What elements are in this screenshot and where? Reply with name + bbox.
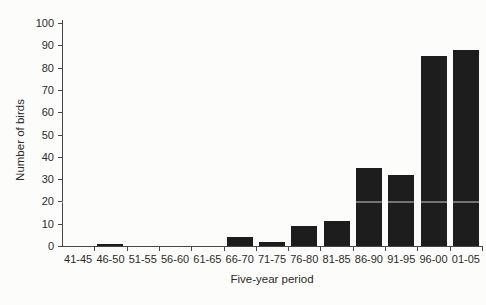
y-tick-mark	[58, 112, 62, 113]
bar-66-70	[227, 237, 253, 246]
y-tick-label: 30	[24, 173, 54, 185]
y-tick-mark	[58, 68, 62, 69]
x-tick-mark	[224, 247, 225, 251]
y-tick-label: 80	[24, 62, 54, 74]
bar-01-05	[453, 50, 479, 246]
y-tick-mark	[58, 23, 62, 24]
x-category-label: 76-80	[288, 253, 320, 265]
bar-96-00	[421, 56, 447, 246]
y-tick-label: 0	[24, 240, 54, 252]
bar-chart-figure: Number of birds Five-year period 0102030…	[0, 0, 486, 305]
bar-46-50	[97, 244, 123, 246]
x-tick-mark	[482, 247, 483, 251]
y-tick-mark	[58, 90, 62, 91]
y-tick-label: 50	[24, 129, 54, 141]
y-tick-mark	[58, 179, 62, 180]
y-axis-line	[62, 20, 63, 247]
x-tick-mark	[159, 247, 160, 251]
y-tick-label: 100	[24, 17, 54, 29]
x-category-label: 41-45	[62, 253, 94, 265]
x-tick-mark	[256, 247, 257, 251]
x-tick-mark	[417, 247, 418, 251]
x-category-label: 56-60	[159, 253, 191, 265]
y-tick-label: 90	[24, 39, 54, 51]
bar-76-80	[291, 226, 317, 246]
x-axis-title: Five-year period	[230, 273, 313, 285]
x-tick-mark	[450, 247, 451, 251]
x-category-label: 96-00	[417, 253, 449, 265]
bar-86-90	[356, 168, 382, 246]
bar-91-95	[388, 175, 414, 246]
x-tick-mark	[127, 247, 128, 251]
y-tick-mark	[58, 45, 62, 46]
x-category-label: 01-05	[450, 253, 482, 265]
x-category-label: 81-85	[320, 253, 352, 265]
x-tick-mark	[353, 247, 354, 251]
y-tick-mark	[58, 135, 62, 136]
scan-artifact-line	[62, 201, 482, 203]
x-tick-mark	[385, 247, 386, 251]
y-tick-label: 40	[24, 151, 54, 163]
x-category-label: 86-90	[353, 253, 385, 265]
x-axis-line	[62, 246, 483, 247]
y-tick-mark	[58, 157, 62, 158]
x-category-label: 66-70	[224, 253, 256, 265]
x-tick-mark	[288, 247, 289, 251]
bar-71-75	[259, 242, 285, 246]
y-tick-mark	[58, 246, 62, 247]
x-category-label: 71-75	[256, 253, 288, 265]
x-tick-mark	[320, 247, 321, 251]
x-tick-mark	[191, 247, 192, 251]
x-category-label: 91-95	[385, 253, 417, 265]
y-tick-label: 60	[24, 106, 54, 118]
y-tick-label: 20	[24, 195, 54, 207]
y-tick-label: 10	[24, 218, 54, 230]
x-tick-mark	[94, 247, 95, 251]
bar-81-85	[324, 221, 350, 246]
y-tick-mark	[58, 224, 62, 225]
x-category-label: 46-50	[94, 253, 126, 265]
x-category-label: 61-65	[191, 253, 223, 265]
y-tick-label: 70	[24, 84, 54, 96]
x-category-label: 51-55	[127, 253, 159, 265]
